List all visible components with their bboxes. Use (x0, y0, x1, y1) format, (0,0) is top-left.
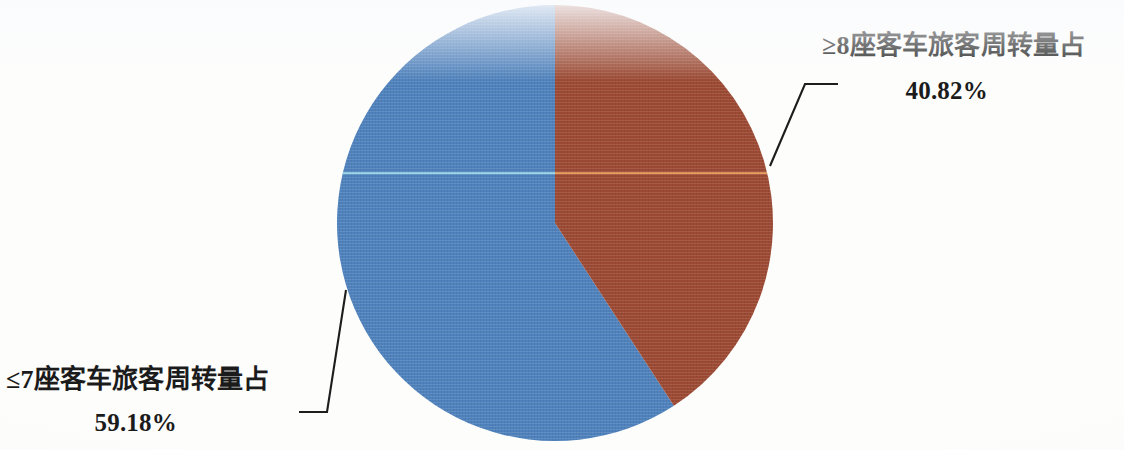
pie-label-ge8-seats-value: 40.82% (808, 75, 1085, 106)
pie-chart-figure: ≥8座客车旅客周转量占 40.82% ≤7座客车旅客周转量占 59.18% (0, 0, 1124, 450)
scan-artifact-line (330, 172, 780, 174)
pie-label-le7-seats-value: 59.18% (2, 407, 269, 438)
pie-label-ge8-seats: ≥8座客车旅客周转量占 40.82% (822, 30, 1085, 106)
leader-line-le7-seats (299, 290, 346, 412)
pie-label-le7-seats-title: ≤7座客车旅客周转量占 (6, 364, 269, 397)
pie-label-ge8-seats-title: ≥8座客车旅客周转量占 (822, 30, 1085, 63)
pie-label-le7-seats: ≤7座客车旅客周转量占 59.18% (6, 364, 269, 438)
pie-texture-overlay (337, 5, 773, 441)
